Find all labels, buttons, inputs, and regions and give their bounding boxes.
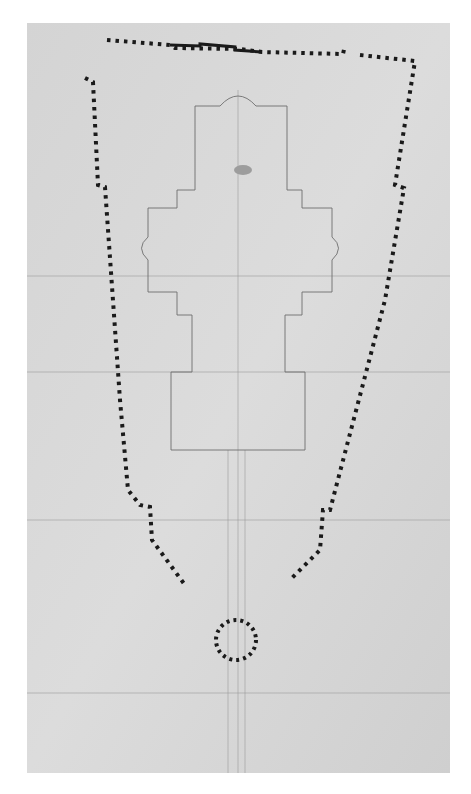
plan-drawing [27, 23, 450, 773]
plan-drawing-sheet [27, 23, 450, 773]
ink-stain [234, 165, 252, 175]
